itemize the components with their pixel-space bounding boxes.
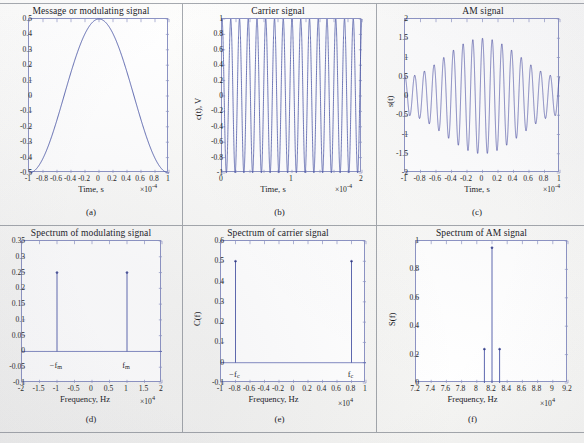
y-tick-label: 0.1 [1, 314, 25, 323]
panel-a-plot [29, 19, 169, 173]
x-tick-label: 0 [219, 174, 223, 183]
y-tick-label: 1 [395, 236, 419, 245]
panel-b-plot [222, 19, 362, 173]
figure-page: Message or modulating signal 0.50.40.30.… [0, 0, 584, 443]
y-tick-label: -1 [384, 129, 408, 138]
panel-f-ylabel: S(f) [387, 313, 397, 326]
panel-d-plot [22, 241, 162, 383]
x-tick-label: 2 [359, 174, 363, 183]
y-tick-label: 0.5 [200, 256, 224, 265]
y-tick-label: -1.5 [384, 148, 408, 157]
y-tick-label: 0.15 [1, 299, 25, 308]
x-tick-label: 0 [480, 174, 484, 183]
panel-b: Carrier signal 10.80.60.40.20-0.2-0.4-0.… [183, 4, 376, 225]
panel-e-caption: (e) [183, 414, 376, 424]
x-tick-label: -1 [401, 174, 407, 183]
panel-b-caption: (b) [183, 207, 376, 217]
x-tick-label: 1 [363, 384, 367, 393]
panel-c-ylabel: s(t) [385, 96, 395, 107]
y-tick-label: 0.1 [8, 75, 32, 84]
panel-c-title: AM signal [393, 6, 573, 16]
y-tick-label: 0 [8, 91, 32, 100]
x-tick-label: -0.2 [460, 174, 472, 183]
x-tick-label: -0.2 [272, 384, 284, 393]
y-tick-label: 2 [384, 14, 408, 23]
y-tick-label: 0.8 [395, 264, 419, 273]
y-tick-label: -0.4 [199, 121, 223, 130]
panel-f-caption: (f) [385, 414, 560, 424]
panel-e-plot [221, 241, 366, 383]
x-tick-label: 0 [96, 174, 100, 183]
y-tick-label: -0.3 [8, 137, 32, 146]
x-tick-label: 0.2 [107, 174, 117, 183]
y-tick-label: 0 [200, 357, 224, 366]
y-tick-label: 0.3 [8, 44, 32, 53]
panel-a-axes [28, 18, 168, 172]
spectrum-frequency-label: −fm [50, 361, 62, 370]
page-rule-bottom [0, 432, 584, 433]
x-tick-label: 2 [159, 384, 163, 393]
x-tick-label: 0.4 [121, 174, 131, 183]
x-tick-label: 1.5 [139, 384, 149, 393]
panel-e-x-exponent: ×104 [338, 396, 353, 408]
y-tick-label: 0.4 [8, 29, 32, 38]
panel-c-plot [405, 19, 560, 173]
panel-d-title: Spectrum of modulating signal [8, 228, 174, 238]
panel-d: Spectrum of modulating signal 0.350.30.2… [0, 226, 182, 432]
x-tick-label: 8.8 [532, 384, 542, 393]
x-tick-label: -1 [53, 384, 59, 393]
panel-b-xlabel: Time, s [193, 184, 353, 194]
x-tick-label: 1 [166, 174, 170, 183]
panel-c: AM signal 21.510.50-0.5-1-1.5-2 -1-0.8-0… [377, 4, 584, 225]
spectrum-frequency-label: fc [348, 370, 354, 379]
spectrum-frequency-label: fm [122, 361, 130, 370]
panel-d-axes [21, 240, 161, 382]
x-tick-label: 0.4 [508, 174, 518, 183]
x-tick-label: 8.2 [486, 384, 496, 393]
x-tick-label: -1.5 [32, 384, 44, 393]
x-tick-label: 9 [550, 384, 554, 393]
y-tick-label: 0.4 [200, 276, 224, 285]
x-tick-label: 0.6 [331, 384, 341, 393]
panel-d-caption: (d) [0, 414, 182, 424]
y-tick-label: 0.3 [1, 251, 25, 260]
y-tick-label: 0 [1, 346, 25, 355]
y-tick-label: 0.2 [8, 60, 32, 69]
x-tick-label: -0.8 [36, 174, 48, 183]
x-tick-label: 1 [124, 384, 128, 393]
y-tick-label: 0.6 [200, 236, 224, 245]
x-tick-label: -0.6 [243, 384, 255, 393]
x-tick-label: 0.2 [492, 174, 502, 183]
x-tick-label: 0 [291, 384, 295, 393]
x-tick-label: -0.4 [64, 174, 76, 183]
y-tick-label: -0.5 [384, 110, 408, 119]
y-tick-label: 0.4 [395, 321, 419, 330]
panel-a-caption: (a) [0, 207, 182, 217]
x-tick-label: 0 [89, 384, 93, 393]
y-tick-label: 0.2 [1, 283, 25, 292]
panel-c-x-exponent: ×10-4 [543, 182, 560, 194]
y-tick-label: 0.6 [395, 292, 419, 301]
y-tick-label: 0.25 [1, 267, 25, 276]
x-tick-label: -0.6 [429, 174, 441, 183]
y-tick-label: 1 [199, 14, 223, 23]
panel-a: Message or modulating signal 0.50.40.30.… [0, 4, 182, 225]
panel-d-x-exponent: ×104 [140, 394, 155, 406]
x-tick-label: -0.8 [228, 384, 240, 393]
y-tick-label: -0.05 [1, 362, 25, 371]
panel-e: Spectrum of carrier signal 0.60.50.40.30… [183, 226, 376, 432]
y-tick-label: 0.3 [200, 296, 224, 305]
panel-c-axes [404, 18, 559, 172]
y-tick-label: 0.6 [199, 44, 223, 53]
x-tick-label: -1 [217, 384, 223, 393]
x-tick-label: 7.6 [441, 384, 451, 393]
x-tick-label: 7.4 [425, 384, 435, 393]
y-tick-label: -0.1 [8, 106, 32, 115]
x-tick-label: 8.6 [517, 384, 527, 393]
panel-e-ylabel: C(f) [192, 312, 202, 326]
panel-b-axes [221, 18, 361, 172]
x-tick-label: -0.6 [50, 174, 62, 183]
y-tick-label: 0.35 [1, 236, 25, 245]
y-tick-label: 0.4 [199, 60, 223, 69]
x-tick-label: -0.4 [444, 174, 456, 183]
